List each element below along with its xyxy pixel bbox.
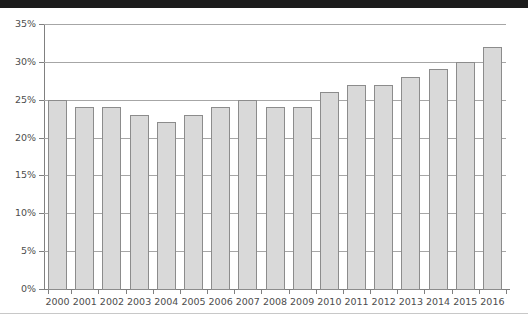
y-axis-tick-label: 10% — [0, 208, 36, 218]
x-axis-tick-mark — [452, 290, 453, 294]
x-axis-tick-mark — [370, 290, 371, 294]
y-axis-tick-label: 5% — [0, 246, 36, 256]
x-axis-tick-mark — [479, 290, 480, 294]
bar — [48, 100, 67, 290]
x-axis-tick-mark — [207, 290, 208, 294]
x-axis-tick-mark — [289, 290, 290, 294]
bar — [293, 107, 312, 290]
gridline — [44, 24, 506, 25]
bottom-light-rule — [0, 313, 528, 314]
bar — [75, 107, 94, 290]
bar — [184, 115, 203, 290]
bar — [211, 107, 230, 290]
bar — [266, 107, 285, 290]
bar — [320, 92, 339, 290]
x-axis-tick-mark — [397, 290, 398, 294]
bar — [102, 107, 121, 290]
x-axis-tick-mark — [424, 290, 425, 294]
y-axis-tick-label: 25% — [0, 95, 36, 105]
y-axis-tick-label: 30% — [0, 57, 36, 67]
bar — [130, 115, 149, 290]
gridline — [44, 62, 506, 63]
bar — [456, 62, 475, 290]
bar — [374, 85, 393, 290]
x-axis-tick-mark — [343, 290, 344, 294]
x-axis-tick-mark — [180, 290, 181, 294]
y-axis-tick-label: 15% — [0, 170, 36, 180]
bar — [157, 122, 176, 290]
bar — [347, 85, 366, 290]
y-axis-tick-label: 0% — [0, 284, 36, 294]
x-axis-tick-mark — [316, 290, 317, 294]
x-axis-tick-mark — [48, 290, 49, 294]
x-axis-tick-mark — [506, 290, 507, 294]
y-axis-tick-label: 35% — [0, 19, 36, 29]
y-axis-tick-label: 20% — [0, 133, 36, 143]
x-axis-tick-label: 2016 — [476, 296, 508, 307]
x-axis-tick-mark — [98, 290, 99, 294]
chart-page: 0%5%10%15%20%25%30%35% 20002001200220032… — [0, 0, 528, 324]
bar — [401, 77, 420, 290]
bar — [429, 69, 448, 290]
x-axis-tick-mark — [153, 290, 154, 294]
bar-chart: 0%5%10%15%20%25%30%35% 20002001200220032… — [0, 0, 528, 324]
bar — [483, 47, 502, 290]
x-axis-tick-mark — [261, 290, 262, 294]
x-axis-tick-mark — [234, 290, 235, 294]
x-axis-tick-mark — [126, 290, 127, 294]
plot-area — [44, 24, 506, 289]
x-axis-tick-mark — [71, 290, 72, 294]
bar — [238, 100, 257, 290]
